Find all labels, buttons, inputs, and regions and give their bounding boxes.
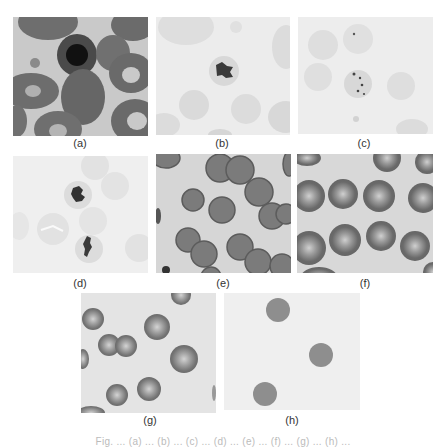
panel-a-label: (a) xyxy=(73,137,86,149)
figure-caption: Fig. ... (a) ... (b) ... (c) ... (d) ...… xyxy=(0,436,446,448)
panel-b-label: (b) xyxy=(215,137,228,149)
panel-b-image xyxy=(156,17,290,135)
panel-e-image xyxy=(156,154,291,273)
panel-f-image xyxy=(297,154,433,273)
panel-d-label: (d) xyxy=(73,277,86,289)
panel-g-image xyxy=(81,293,216,413)
panel-d-image xyxy=(13,156,148,273)
panel-h-label: (h) xyxy=(285,414,298,426)
panel-c-label: (c) xyxy=(358,137,371,149)
panel-c-image xyxy=(298,17,433,134)
panel-f-label: (f) xyxy=(360,277,370,289)
panel-e-label: (e) xyxy=(216,277,229,289)
panel-g-label: (g) xyxy=(143,414,156,426)
panel-h-image xyxy=(224,293,360,410)
panel-a-image xyxy=(13,17,148,136)
